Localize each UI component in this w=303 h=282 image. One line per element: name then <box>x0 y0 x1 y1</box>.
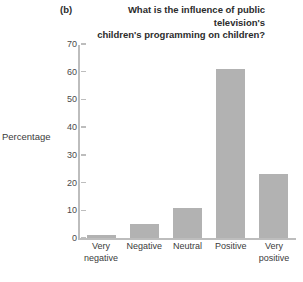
y-tick-label: 40 <box>67 122 77 132</box>
y-tick-label: 70 <box>67 39 77 49</box>
chart-title-line-2: children's programming on children? <box>97 29 265 40</box>
bar <box>259 174 288 238</box>
bar-slot <box>166 44 209 238</box>
bar <box>87 235 116 238</box>
x-tick-label: Negative <box>123 241 166 253</box>
chart-title-line-1: What is the influence of public televisi… <box>128 4 265 28</box>
bar-series <box>80 44 296 238</box>
chart-title-block: (b) What is the influence of public tele… <box>60 4 300 42</box>
x-tick-label-line: Positive <box>209 241 252 253</box>
y-tick-label: 60 <box>67 67 77 77</box>
y-tick-label: 20 <box>67 178 77 188</box>
x-axis-tick-labels: VerynegativeNegativeNeutralPositiveVeryp… <box>80 241 296 275</box>
y-tick-label: 0 <box>72 233 77 243</box>
x-tick-label-line: Neutral <box>166 241 209 253</box>
bar <box>216 69 245 238</box>
bar-slot <box>123 44 166 238</box>
x-tick-label-line: Negative <box>123 241 166 253</box>
y-tick-label: 50 <box>67 94 77 104</box>
x-tick-label: Neutral <box>166 241 209 253</box>
x-axis-line <box>78 238 296 240</box>
plot-area: 010203040506070 <box>78 44 296 243</box>
figure-panel-b: (b) What is the influence of public tele… <box>0 0 303 282</box>
bar <box>130 224 159 238</box>
x-tick-label-line: negative <box>80 253 123 265</box>
y-axis-title: Percentage <box>2 131 51 142</box>
x-tick-label-line: Very <box>80 241 123 253</box>
x-tick-label-line: Very <box>252 241 295 253</box>
x-tick-label: Verypositive <box>252 241 295 264</box>
bar-slot <box>252 44 295 238</box>
y-tick-label: 30 <box>67 150 77 160</box>
x-tick-label: Positive <box>209 241 252 253</box>
y-tick-label: 10 <box>67 205 77 215</box>
bar <box>173 208 202 238</box>
page-title: What is the influence of public televisi… <box>81 4 265 42</box>
x-tick-label: Verynegative <box>80 241 123 264</box>
bar-slot <box>209 44 252 238</box>
x-tick-label-line: positive <box>252 253 295 265</box>
panel-letter: (b) <box>60 4 72 17</box>
bar-slot <box>80 44 123 238</box>
